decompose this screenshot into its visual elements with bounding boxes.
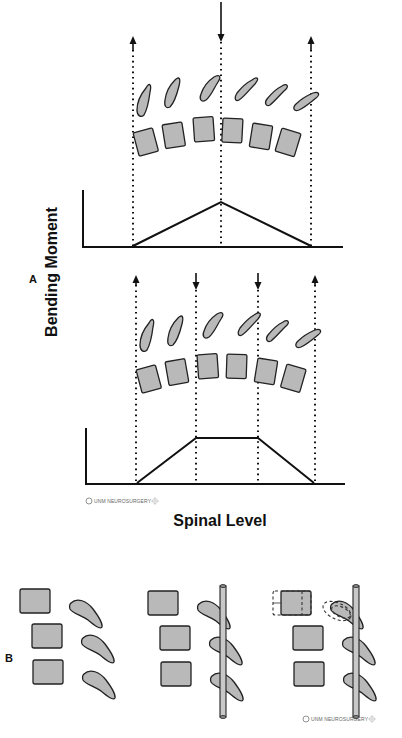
- unm-logo-icon: [368, 715, 376, 723]
- spinous-processes: [70, 600, 116, 699]
- spinous-processes: [140, 313, 321, 352]
- svg-text:UNM NEUROSURGERY: UNM NEUROSURGERY: [94, 498, 152, 504]
- panel-b-stage-instrumented: [148, 585, 243, 719]
- arrow-up-icon: [312, 275, 319, 286]
- x-axis-label: Spinal Level: [173, 512, 266, 529]
- vertebral-bodies: [148, 591, 191, 686]
- copyright-notice-a: UNM NEUROSURGERY: [86, 497, 159, 505]
- spinal-rod: [220, 585, 226, 719]
- spinous-processes: [137, 76, 319, 117]
- vertebral-bodies: [133, 117, 301, 157]
- arrow-down-icon: [218, 2, 225, 42]
- panel-label-b: B: [5, 652, 13, 664]
- vertebral-bodies: [20, 589, 63, 684]
- panel-label-a: A: [29, 273, 37, 285]
- unm-logo-icon: [151, 497, 159, 505]
- arrow-up-icon: [133, 275, 140, 286]
- arrow-up-icon: [130, 36, 137, 50]
- panel-b-stage-intact: [20, 589, 115, 699]
- arrow-down-icon: [193, 273, 200, 290]
- copyright-notice-b: UNM NEUROSURGERY: [303, 715, 376, 723]
- spinal-rod: [353, 585, 359, 719]
- figure-canvas: A Bending Moment Spinal Level UNM NEUROS…: [0, 0, 402, 738]
- panel-b-stage-resection: [273, 585, 376, 719]
- three-point-bending-diagram: [83, 2, 343, 247]
- copyright-icon: [303, 716, 309, 722]
- vertebral-bodies: [281, 591, 324, 686]
- svg-text:UNM NEUROSURGERY: UNM NEUROSURGERY: [311, 716, 369, 722]
- moment-curve-trapezoid: [137, 438, 314, 483]
- copyright-icon: [86, 498, 92, 504]
- vertebral-bodies: [136, 354, 306, 394]
- four-point-bending-diagram: [86, 273, 345, 484]
- moment-curve-triangle: [133, 202, 311, 246]
- moment-axis-top: [83, 190, 343, 247]
- arrow-down-icon: [255, 273, 262, 290]
- y-axis-label: Bending Moment: [43, 206, 60, 336]
- arrow-up-icon: [308, 36, 315, 50]
